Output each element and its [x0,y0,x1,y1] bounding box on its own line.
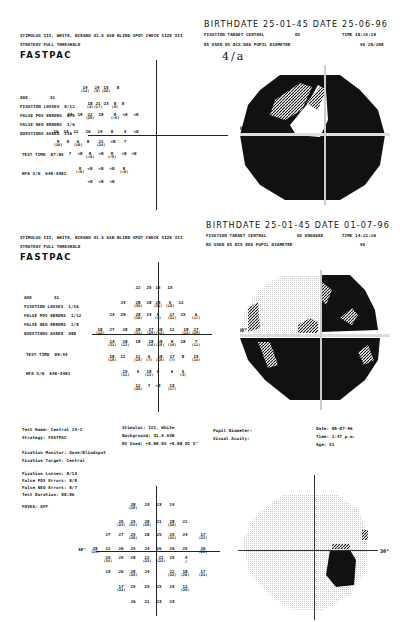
stat-row: QUESTIONS ASKED300 [24,332,76,336]
threshold-value: 25(25) [102,556,114,564]
threshold-value: <0 [130,130,142,134]
grayscale-field-map: 30° [238,475,396,620]
horizontal-axis [92,334,212,335]
info-label: Fixation Target: [22,458,64,463]
info-label: Age: [316,442,326,447]
strategy-line: STRATEGY FULL THRESHOLD [20,43,80,47]
stat-row: FIXATION LOSSES1/16 [24,305,79,309]
threshold-value: 28(28) [127,503,139,511]
stat-value: 2/8 [71,322,79,327]
info-row: Visual Acuity: [213,437,250,441]
info-label: False NEG Errors: [22,485,67,490]
threshold-value: 13(17) [166,384,178,392]
threshold-value: 14(14) [79,86,91,94]
stat-value: 09:54 [55,352,68,357]
threshold-value: 25(28) [127,533,139,541]
threshold-value: 29 [117,313,129,317]
axis-label-30: 30° [78,548,86,552]
threshold-value: 24 [94,130,106,134]
threshold-value: 25 [166,556,178,560]
threshold-value: 28(28) [166,520,178,528]
info-label: Background: [122,433,151,438]
svg-text:30°: 30° [240,125,247,131]
stat-label: HFA S/N [22,171,40,176]
stat-row: FALSE NEG ERRORS1/6 [20,123,75,127]
stat-row: FALSE NEG ERRORS2/8 [24,323,79,327]
info-row: Age: 51 [316,443,334,447]
stat-label: AGE [20,95,28,100]
grayscale-field-map: 30° [240,270,390,410]
threshold-value: 26 [115,570,127,574]
program-title: FASTPAC [20,50,72,60]
threshold-value: 0(<0) [106,152,118,160]
threshold-value: 21 [153,520,165,524]
time-line: TIME 14:21:26 [342,234,376,238]
threshold-value: 23 [141,503,153,507]
stat-row: HFA S/N640-3401 [26,372,70,376]
info-value: Gaze/Blindspot [67,450,106,455]
stat-label: HFA S/N [26,371,44,376]
stat-label: TEST TIME [22,152,46,157]
threshold-value: 17(24) [115,585,127,593]
stat-label: TEST TIME [26,352,50,357]
info-label: Pupil Diameter: [213,428,252,433]
threshold-value: 25 [141,585,153,589]
stat-label: FALSE POS ERRORS [24,313,66,318]
va-line: VA [360,243,365,247]
threshold-value: 23 [153,600,165,604]
threshold-value: <0 [128,152,140,156]
threshold-value: 24 [179,533,191,537]
threshold-value: 25 [153,533,165,537]
stat-label: FALSE NEG ERRORS [20,122,62,127]
strategy-line: STRATEGY FULL THRESHOLD [20,245,80,249]
threshold-value: 4△ [180,556,192,564]
threshold-value: 28 [127,556,139,560]
info-value: Central [64,458,85,463]
stat-value: 1/16 [68,304,78,309]
info-row: Stimulus: III, White [122,426,174,430]
threshold-value: 26 [127,600,139,604]
threshold-value: 23 [166,600,178,604]
info-row: Test Name: Central 24-2 [22,428,82,432]
threshold-value: 15 [164,286,176,290]
threshold-value: 23 [153,503,165,507]
threshold-value: 0 [112,86,124,90]
info-row: Test Duration: 08:06 [22,493,74,497]
info-value: III, White [146,425,175,430]
info-row: FOVEA: OFF [22,505,48,509]
stat-label: FALSE NEG ERRORS [24,322,66,327]
rx-line: RX USED DS DCX DEG PUPIL DIAMETER [206,243,293,247]
info-label: Stimulus: [122,425,146,430]
info-value: 0/7 [67,485,77,490]
threshold-value: 11 [175,301,187,305]
threshold-value: 25 [153,585,165,589]
stat-label: FIXATION LOSSES [20,104,59,109]
info-label: Time: [316,434,329,439]
info-label: Test Name: [22,427,48,432]
threshold-value: 22(22) [166,570,178,578]
stat-row: TEST TIME07:05 [22,153,64,157]
info-row: RX Used: +0.00 DS +0.00 DC X° [122,442,198,446]
stat-row: FIXATION LOSSES0/12 [20,105,75,109]
handwritten-note: 4/a [222,50,245,63]
threshold-value: 0 [117,102,129,106]
threshold-value: 0 [106,130,118,134]
stat-value: 0/12 [64,104,74,109]
info-value: 1:47 p.m. [329,434,355,439]
info-row: Fixation Target: Central [22,459,85,463]
stat-row: TEST TIME09:54 [26,353,68,357]
svg-text:30°: 30° [240,327,247,333]
threshold-value: 17(23) [197,533,209,541]
threshold-value: 0 [82,140,94,144]
info-row: Background: 31.5 ASB [122,434,174,438]
rx-line: RX USED DS DCX DEG PUPIL DIAMETER [204,43,291,47]
stat-value: 640-3401 [49,371,70,376]
program-title: FASTPAC [20,252,72,262]
birthdate-date-line: BIRTHDATE 25-01-45 DATE 25-06-96 [204,21,388,29]
threshold-value: 15(15) [119,370,131,378]
threshold-value: 15(15) [190,355,202,363]
threshold-value: <0 [130,113,142,117]
stimulus-line: STIMULUS III, WHITE, BCKGND 31.5 ASB BLI… [20,34,183,38]
threshold-value: 18(12) [119,340,131,348]
info-label: Test Duration: [22,492,59,497]
